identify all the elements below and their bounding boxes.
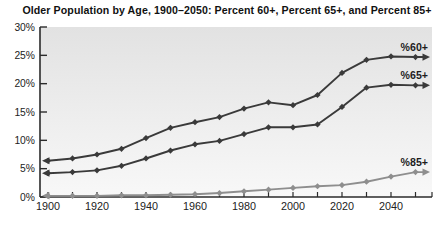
x-tick-label: 1900 [36,200,60,212]
x-tick-label: 2000 [281,200,305,212]
x-tick-label: 2040 [379,200,403,212]
y-tick-label: 10% [14,135,35,146]
chart-container: Older Population by Age, 1900–2050: Perc… [0,0,444,226]
series-label-85-plus: %85+ [401,156,428,168]
y-tick-label: 20% [14,78,35,89]
series-label-60-plus: %60+ [401,41,428,53]
y-tick-label: 30% [14,22,35,33]
chart-canvas: 0%5%10%15%20%25%30%190019201940196019802… [0,0,444,226]
x-tick-label: 1940 [134,200,158,212]
x-tick-label: 1920 [85,200,109,212]
series-label-65-plus: %65+ [401,69,428,81]
y-tick-label: 15% [14,107,35,118]
y-tick-label: 5% [20,163,35,174]
x-tick-label: 1960 [183,200,207,212]
x-tick-label: 2020 [330,200,354,212]
y-tick-label: 25% [14,50,35,61]
y-tick-label: 0% [20,192,35,203]
x-tick-label: 1980 [232,200,256,212]
